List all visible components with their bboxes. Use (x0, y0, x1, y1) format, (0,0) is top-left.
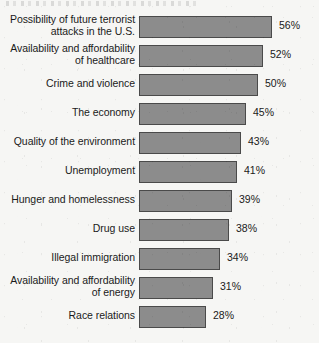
bar (139, 74, 258, 96)
bar-chart-row: Possibility of future terrorist attacks … (0, 14, 319, 43)
bar-category-label: Availability and affordability of energy (4, 275, 135, 298)
bar (139, 306, 206, 328)
bar-chart-row: Hunger and homelessness39% (0, 188, 319, 217)
bar (139, 16, 272, 38)
bar-chart-row: Crime and violence50% (0, 72, 319, 101)
bar-track (139, 277, 213, 299)
bar-category-label: Availability and affordability of health… (4, 43, 135, 66)
bar-track (139, 16, 272, 38)
bar-category-label: Crime and violence (4, 78, 135, 90)
bar-value-label: 50% (265, 77, 286, 89)
bar-chart-row: Illegal immigration34% (0, 246, 319, 275)
bar-value-label: 39% (239, 193, 260, 205)
bar-value-label: 52% (270, 48, 291, 60)
bar-track (139, 103, 246, 125)
bar-chart-row: The economy45% (0, 101, 319, 130)
bar (139, 277, 213, 299)
bar-track (139, 306, 206, 328)
bar-track (139, 74, 258, 96)
bar-chart-row: Availability and affordability of energy… (0, 275, 319, 304)
bar-value-label: 43% (248, 135, 269, 147)
bar-track (139, 190, 232, 212)
bar-chart-rows: Possibility of future terrorist attacks … (0, 14, 319, 333)
bar-track (139, 248, 220, 270)
bar (139, 132, 241, 154)
bar-track (139, 219, 229, 241)
bar (139, 45, 263, 67)
bar (139, 103, 246, 125)
bar-value-label: 56% (279, 19, 300, 31)
bar-chart-row: Drug use38% (0, 217, 319, 246)
bar-value-label: 45% (253, 106, 274, 118)
bar (139, 219, 229, 241)
bar (139, 161, 237, 183)
bar-value-label: 34% (227, 251, 248, 263)
bar-category-label: Illegal immigration (4, 252, 135, 264)
bar-category-label: Hunger and homelessness (4, 194, 135, 206)
bar-track (139, 132, 241, 154)
bar-value-label: 41% (244, 164, 265, 176)
bar (139, 248, 220, 270)
bar-chart-row: Availability and affordability of health… (0, 43, 319, 72)
bar-chart-row: Quality of the environment43% (0, 130, 319, 159)
bar-category-label: Unemployment (4, 165, 135, 177)
bar-value-label: 31% (220, 280, 241, 292)
bar-chart-row: Unemployment41% (0, 159, 319, 188)
bar (139, 190, 232, 212)
bar-chart: Possibility of future terrorist attacks … (0, 0, 319, 343)
bar-value-label: 28% (213, 309, 234, 321)
bar-category-label: Drug use (4, 223, 135, 235)
bar-category-label: Race relations (4, 310, 135, 322)
bar-track (139, 45, 263, 67)
scan-artifact-line (6, 1, 196, 6)
bar-track (139, 161, 237, 183)
bar-category-label: The economy (4, 107, 135, 119)
bar-value-label: 38% (236, 222, 257, 234)
bar-chart-row: Race relations28% (0, 304, 319, 333)
bar-category-label: Quality of the environment (4, 136, 135, 148)
bar-category-label: Possibility of future terrorist attacks … (4, 14, 135, 37)
